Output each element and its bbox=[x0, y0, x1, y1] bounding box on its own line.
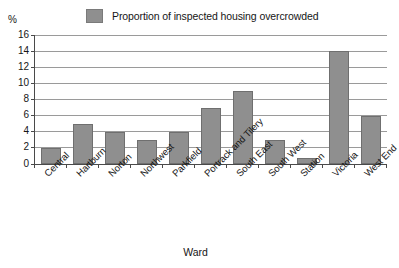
x-tick bbox=[354, 164, 355, 168]
bar bbox=[329, 51, 349, 164]
bar-series bbox=[35, 35, 387, 164]
x-tick bbox=[130, 164, 131, 168]
y-axis-tick-label-14: 14 bbox=[5, 45, 29, 56]
x-tick bbox=[162, 164, 163, 168]
x-tick bbox=[226, 164, 227, 168]
x-tick bbox=[290, 164, 291, 168]
x-axis-title: Ward bbox=[0, 246, 391, 258]
y-axis-unit-label: % bbox=[8, 14, 17, 25]
plot-area: 0246810121416 bbox=[34, 35, 387, 164]
y-axis-tick-label-6: 6 bbox=[5, 109, 29, 120]
y-axis-tick-label-12: 12 bbox=[5, 61, 29, 72]
y-axis-tick-label-16: 16 bbox=[5, 29, 29, 40]
x-tick bbox=[258, 164, 259, 168]
chart-legend: Proportion of inspected housing overcrow… bbox=[86, 9, 318, 23]
y-axis-tick-label-0: 0 bbox=[5, 158, 29, 169]
y-axis-tick-label-4: 4 bbox=[5, 125, 29, 136]
y-axis-tick-label-2: 2 bbox=[5, 141, 29, 152]
x-tick bbox=[386, 164, 387, 168]
legend-swatch-icon bbox=[86, 9, 103, 23]
y-axis-tick-label-8: 8 bbox=[5, 93, 29, 104]
x-tick bbox=[66, 164, 67, 168]
y-axis-tick-label-10: 10 bbox=[5, 77, 29, 88]
legend-label: Proportion of inspected housing overcrow… bbox=[112, 10, 318, 22]
x-tick bbox=[98, 164, 99, 168]
x-tick bbox=[194, 164, 195, 168]
x-tick bbox=[34, 164, 35, 168]
x-tick bbox=[322, 164, 323, 168]
